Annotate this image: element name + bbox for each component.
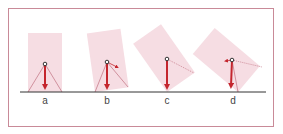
figure-b (87, 29, 129, 92)
block-d (193, 28, 260, 92)
label-a: a (39, 95, 51, 106)
figure-c (133, 24, 195, 92)
label-b: b (101, 95, 113, 106)
center-of-mass-dot-c (165, 57, 169, 61)
figure-a (28, 33, 62, 92)
tipping-block-diagram (0, 0, 283, 134)
center-of-mass-dot-a (43, 62, 47, 66)
center-of-mass-dot-b (105, 60, 109, 64)
weight-arrow-d (231, 60, 232, 86)
label-d: d (227, 95, 239, 106)
center-of-mass-dot-d (230, 58, 234, 62)
label-c: c (161, 95, 173, 106)
block-c (133, 24, 195, 92)
figure-d (193, 28, 262, 92)
